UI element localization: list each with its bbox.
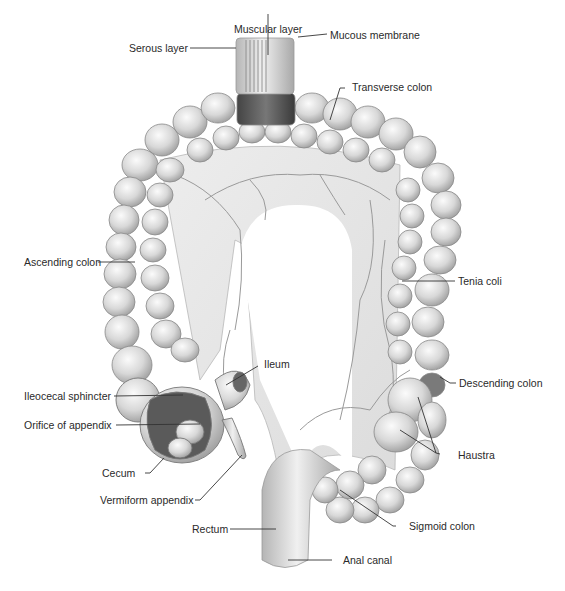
label-ileocecal-sphincter: Ileocecal sphincter <box>24 390 111 402</box>
label-haustra: Haustra <box>458 449 495 461</box>
label-mucous-membrane: Mucous membrane <box>330 29 420 41</box>
label-orifice-of-appendix: Orifice of appendix <box>24 419 112 431</box>
label-muscular-layer: Muscular layer <box>234 23 302 35</box>
label-serous-layer: Serous layer <box>129 42 188 54</box>
label-ileum: Ileum <box>264 358 290 370</box>
label-sigmoid-colon: Sigmoid colon <box>409 520 475 532</box>
large-intestine-illustration <box>0 0 565 591</box>
label-tenia-coli: Tenia coli <box>458 275 502 287</box>
label-ascending-colon: Ascending colon <box>24 256 101 268</box>
label-cecum: Cecum <box>102 467 135 479</box>
label-vermiform-appendix: Vermiform appendix <box>100 494 193 506</box>
label-rectum: Rectum <box>192 523 228 535</box>
cecum-shape <box>116 371 250 463</box>
label-transverse-colon: Transverse colon <box>352 81 432 93</box>
label-descending-colon: Descending colon <box>459 377 542 389</box>
label-anal-canal: Anal canal <box>343 554 392 566</box>
